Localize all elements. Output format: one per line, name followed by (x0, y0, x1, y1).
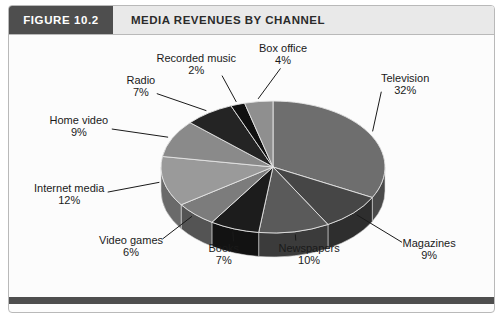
pie-slice-tops: Television 32%Magazines 9%Newspapers 10%… (161, 101, 385, 233)
pie-label-percent: 6% (99, 246, 163, 259)
figure-number-badge: FIGURE 10.2 (9, 6, 113, 34)
pie-label-percent: 7% (127, 86, 156, 99)
pie-label-percent: 10% (279, 254, 340, 267)
pie-label-magazines: Magazines9% (403, 237, 456, 262)
pie-label-newspapers: Newspapers10% (279, 242, 340, 267)
figure-title: MEDIA REVENUES BY CHANNEL (113, 6, 494, 34)
pie-label-percent: 7% (209, 254, 240, 267)
pie-label-percent: 2% (157, 64, 236, 77)
pie-label-percent: 32% (381, 84, 429, 97)
pie-label-books: Books7% (209, 242, 240, 267)
pie-label-box-office: Box office4% (259, 42, 307, 67)
pie-label-television: Television32% (381, 72, 429, 97)
leader-line-newspapers (295, 234, 296, 240)
pie-label-name: Home video (50, 114, 109, 126)
figure-panel: FIGURE 10.2 MEDIA REVENUES BY CHANNEL Te… (8, 5, 495, 313)
pie-label-percent: 4% (259, 54, 307, 67)
leader-line-home-video (112, 129, 168, 137)
pie-label-name: Magazines (403, 237, 456, 249)
pie-label-name: Recorded music (157, 52, 236, 64)
pie-label-internet-media: Internet media12% (34, 182, 104, 207)
pie-label-name: Video games (99, 234, 163, 246)
pie-label-percent: 9% (50, 126, 109, 139)
pie-label-name: Radio (127, 74, 156, 86)
pie-label-percent: 9% (403, 249, 456, 262)
figure-header: FIGURE 10.2 MEDIA REVENUES BY CHANNEL (9, 6, 494, 35)
pie-label-name: Newspapers (279, 242, 340, 254)
pie-label-name: Internet media (34, 182, 104, 194)
pie-label-name: Television (381, 72, 429, 84)
pie-label-name: Box office (259, 42, 307, 54)
leader-line-internet-media (108, 182, 160, 192)
pie-label-percent: 12% (34, 194, 104, 207)
figure-bottom-rule (9, 297, 494, 304)
pie-label-video-games: Video games6% (99, 234, 163, 259)
leader-line-box-office (258, 68, 280, 99)
pie-label-radio: Radio7% (127, 74, 156, 99)
leader-line-radio (157, 94, 207, 111)
pie-label-home-video: Home video9% (50, 114, 109, 139)
leader-line-television (373, 92, 382, 132)
pie-label-name: Books (209, 242, 240, 254)
pie-label-recorded-music: Recorded music2% (157, 52, 236, 77)
leader-line-recorded-music (222, 76, 236, 102)
